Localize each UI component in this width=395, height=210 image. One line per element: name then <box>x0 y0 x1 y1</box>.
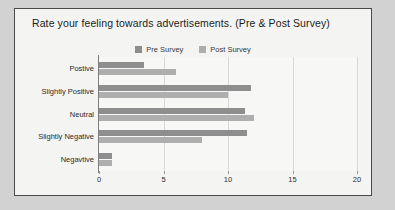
gridline <box>357 57 358 171</box>
chart-legend: Pre SurveyPost Survey <box>15 45 371 54</box>
legend-swatch-icon <box>199 46 206 53</box>
category-label: Negavtive <box>18 155 94 164</box>
bar[interactable] <box>99 130 247 136</box>
x-axis-tick-label: 20 <box>353 175 361 184</box>
chart-title: Rate your feeling towards advertisements… <box>32 17 352 30</box>
x-axis-tick-label: 10 <box>224 175 232 184</box>
x-axis-tick-mark <box>164 171 165 174</box>
bar[interactable] <box>99 92 228 98</box>
bar-group: Slightly Negative <box>99 130 357 143</box>
bar[interactable] <box>99 108 245 114</box>
category-label: Slightly Negative <box>18 132 94 141</box>
legend-label: Pre Survey <box>146 45 183 54</box>
bar[interactable] <box>99 153 112 159</box>
bar-group: Postive <box>99 62 357 75</box>
plot-area: PostiveSlightly PositiveNeutralSlightly … <box>99 57 357 171</box>
legend-entry[interactable]: Pre Survey <box>135 45 183 54</box>
bar[interactable] <box>99 85 251 91</box>
bar-group: Negavtive <box>99 153 357 166</box>
x-axis-tick-mark <box>228 171 229 174</box>
category-label: Postive <box>18 64 94 73</box>
legend-swatch-icon <box>135 46 142 53</box>
bar[interactable] <box>99 137 202 143</box>
x-axis-tick-label: 5 <box>161 175 165 184</box>
x-axis-tick-mark <box>99 171 100 174</box>
bar[interactable] <box>99 160 112 166</box>
category-label: Neutral <box>18 110 94 119</box>
x-axis-tick-label: 15 <box>288 175 296 184</box>
x-axis-tick-label: 0 <box>97 175 101 184</box>
x-axis-tick-mark <box>357 171 358 174</box>
bar-group: Neutral <box>99 108 357 121</box>
bar-group: Slightly Positive <box>99 85 357 98</box>
bar[interactable] <box>99 115 254 121</box>
legend-entry[interactable]: Post Survey <box>199 45 250 54</box>
screenshot-stage: Rate your feeling towards advertisements… <box>0 0 395 210</box>
x-axis-tick-mark <box>293 171 294 174</box>
legend-label: Post Survey <box>210 45 250 54</box>
chart-frame: Rate your feeling towards advertisements… <box>14 8 372 196</box>
bar[interactable] <box>99 62 144 68</box>
bar[interactable] <box>99 69 176 75</box>
category-label: Slightly Positive <box>18 87 94 96</box>
